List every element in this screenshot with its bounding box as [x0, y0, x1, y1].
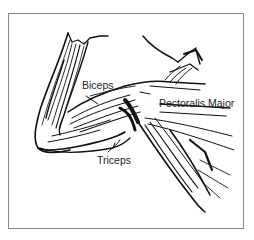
label-biceps: Biceps [82, 80, 114, 91]
arm-muscle-illustration [0, 0, 254, 240]
label-pectoralis-major: Pectoralis Major [159, 98, 234, 109]
label-triceps: Triceps [97, 155, 131, 166]
